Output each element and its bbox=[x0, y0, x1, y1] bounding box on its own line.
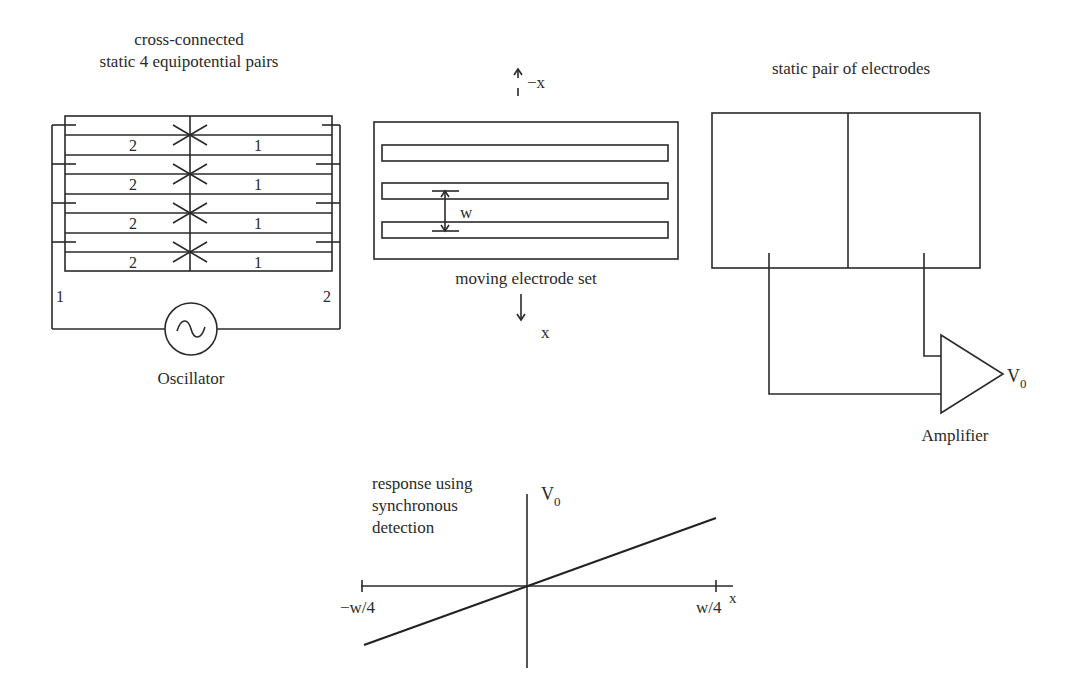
terminal-label-right: 2 bbox=[323, 288, 331, 305]
cross-connected-electrodes-diagram: cross-connected static 4 equipotential p… bbox=[52, 30, 340, 388]
down-arrow-icon bbox=[517, 294, 525, 320]
pair-label-left-1: 2 bbox=[129, 137, 137, 154]
left-title-line1: cross-connected bbox=[134, 30, 244, 49]
static-electrode-pair-diagram: static pair of electrodes V0 Amplifier bbox=[712, 59, 1027, 445]
output-label: V0 bbox=[1007, 366, 1027, 391]
left-electrode-lead bbox=[769, 253, 941, 394]
y-axis-label: V0 bbox=[541, 484, 561, 509]
pair-label-right-1: 1 bbox=[254, 137, 262, 154]
direction-up-label: −x bbox=[527, 73, 546, 92]
response-graph: response using synchronous detection V0 … bbox=[340, 474, 737, 668]
pair-label-right-4: 1 bbox=[254, 254, 262, 271]
graph-caption-line3: detection bbox=[372, 518, 435, 537]
width-dimension-marker bbox=[432, 191, 459, 231]
electrode-strip-1 bbox=[382, 145, 668, 161]
amplifier-label: Amplifier bbox=[921, 426, 988, 445]
moving-electrode-diagram: −x w moving electrode set x bbox=[374, 69, 678, 342]
electrode-strip-2 bbox=[382, 183, 668, 199]
x-tick-label-left: −w/4 bbox=[340, 598, 376, 617]
pair-label-left-2: 2 bbox=[129, 176, 137, 193]
right-title: static pair of electrodes bbox=[772, 59, 930, 78]
electrode-lines bbox=[65, 135, 332, 252]
sine-wave-icon bbox=[177, 321, 205, 337]
pair-label-right-2: 1 bbox=[254, 176, 262, 193]
response-line bbox=[364, 518, 716, 645]
left-title-line2: static 4 equipotential pairs bbox=[100, 52, 279, 71]
up-arrow-icon bbox=[514, 69, 522, 96]
graph-caption-line2: synchronous bbox=[372, 496, 458, 515]
moving-electrode-caption: moving electrode set bbox=[455, 269, 597, 288]
dimension-label-w: w bbox=[460, 203, 473, 222]
pair-label-right-3: 1 bbox=[254, 215, 262, 232]
direction-down-label: x bbox=[541, 323, 550, 342]
electrode-strip-3 bbox=[382, 222, 668, 238]
graph-caption-line1: response using bbox=[372, 474, 473, 493]
oscillator-label: Oscillator bbox=[157, 369, 224, 388]
static-electrode-box bbox=[712, 113, 980, 268]
pair-label-left-3: 2 bbox=[129, 215, 137, 232]
pair-label-left-4: 2 bbox=[129, 254, 137, 271]
amplifier-icon bbox=[941, 335, 1003, 413]
x-axis-label: x bbox=[729, 590, 737, 606]
terminal-label-left: 1 bbox=[56, 288, 64, 305]
x-tick-label-right: w/4 bbox=[696, 598, 722, 617]
